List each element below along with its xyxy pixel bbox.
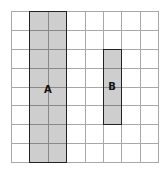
grid-cell [66,87,85,107]
grid-cell [121,124,140,144]
grid-cell [11,105,30,125]
grid-line [104,105,121,106]
grid-cell [11,49,30,69]
shape-label-b: B [108,80,116,91]
grid-cell [140,30,159,50]
grid-cell [85,49,104,69]
grid-line [30,143,66,144]
grid-cell [66,11,85,31]
grid-cell [103,143,122,163]
grid-cell [11,87,30,107]
grid-cell [140,87,159,107]
grid-cell [66,124,85,144]
grid-cell [85,143,104,163]
grid-cell [140,143,159,163]
grid-cell [66,68,85,88]
grid-line [30,124,66,125]
grid-cell [121,30,140,50]
grid-cell [140,11,159,31]
grid-cell [85,11,104,31]
grid-cell [85,124,104,144]
grid-cell [103,30,122,50]
grid-cell [85,87,104,107]
grid-cell [140,105,159,125]
grid-cell [121,11,140,31]
grid-cell [121,68,140,88]
grid-line [30,49,66,50]
grid-line [30,30,66,31]
grid-cell [121,49,140,69]
grid-cell [66,143,85,163]
grid-cell [103,124,122,144]
grid-cell [85,105,104,125]
grid-cell [66,30,85,50]
grid-line [104,68,121,69]
grid-cell [66,49,85,69]
grid-cell [103,11,122,31]
grid-cell [85,30,104,50]
grid-cell [11,11,30,31]
grid-cell [121,105,140,125]
grid-cell [140,68,159,88]
grid-cell [11,30,30,50]
shape-label-a: A [44,83,52,94]
grid-cell [140,124,159,144]
grid-cell [121,143,140,163]
grid-cell [11,68,30,88]
grid-cell [85,68,104,88]
grid-cell [140,49,159,69]
grid-diagram: AB [11,11,158,162]
grid-cell [66,105,85,125]
grid-line [30,105,66,106]
grid-cell [11,124,30,144]
grid-line [30,68,66,69]
grid-cell [11,143,30,163]
grid-cell [121,87,140,107]
